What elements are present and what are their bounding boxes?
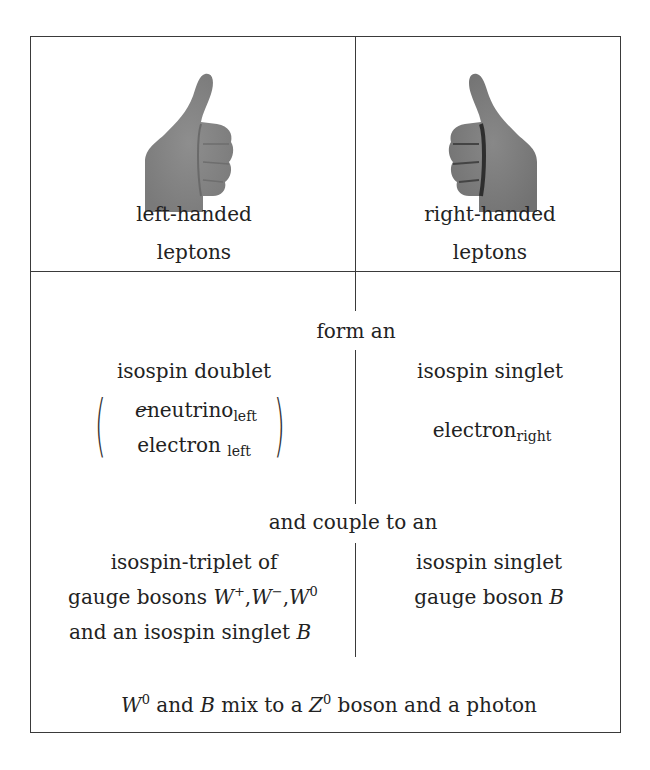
electron-right-entry: electronright: [433, 417, 552, 443]
vertical-divider-middle: [355, 350, 356, 504]
form-an-connector: form an: [316, 318, 395, 344]
isospin-singlet-b-line: and an isospin singlet B: [69, 619, 311, 645]
vertical-divider-bottom: [355, 543, 356, 657]
isospin-singlet-gauge-title: isospin singlet: [416, 549, 562, 575]
left-parenthesis: (: [95, 392, 106, 459]
mixing-statement: W0 and B mix to a Z0 boson and a photon: [121, 692, 537, 718]
vertical-divider-top: [355, 36, 356, 311]
isospin-triplet-line1: isospin-triplet of: [111, 549, 278, 575]
thumbs-up-right-hand-icon: [445, 72, 539, 214]
horizontal-divider: [30, 271, 621, 272]
right-parenthesis: ): [274, 392, 285, 459]
e-neutrino-left-entry: eneutrinoleft: [135, 397, 257, 423]
gauge-boson-b-line: gauge boson B: [414, 584, 564, 610]
left-handed-label: left-handed leptons: [136, 201, 252, 265]
thumbs-up-left-hand-icon: [143, 72, 237, 214]
right-handed-label: right-handed leptons: [424, 201, 556, 265]
isospin-doublet-title: isospin doublet: [117, 358, 271, 384]
couple-connector: and couple to an: [269, 509, 438, 535]
isospin-singlet-title: isospin singlet: [417, 358, 563, 384]
gauge-bosons-line: gauge bosons W+,W−,W0: [68, 584, 318, 610]
electron-left-entry: electron left: [137, 432, 251, 458]
